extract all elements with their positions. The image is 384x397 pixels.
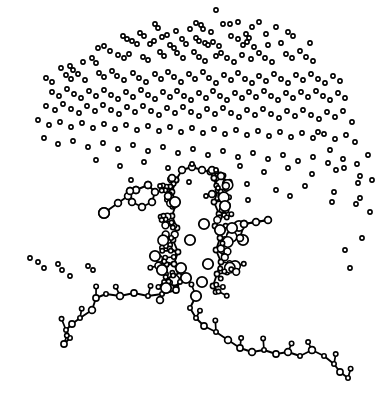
solvent-molecule bbox=[309, 113, 313, 117]
solvent-molecule bbox=[160, 35, 164, 39]
atom bbox=[337, 369, 343, 375]
solvent-molecule bbox=[146, 58, 150, 62]
solvent-molecule bbox=[197, 39, 201, 43]
atom bbox=[162, 222, 169, 229]
atom bbox=[191, 291, 201, 301]
solvent-molecule bbox=[331, 74, 335, 78]
atom bbox=[99, 208, 109, 218]
solvent-molecule bbox=[229, 111, 233, 115]
solvent-molecule bbox=[293, 114, 297, 118]
solvent-molecule bbox=[181, 56, 185, 60]
solvent-molecule bbox=[158, 50, 162, 54]
solvent-molecule bbox=[68, 274, 72, 278]
solvent-molecule bbox=[205, 107, 209, 111]
solvent-molecule bbox=[325, 110, 329, 114]
atom bbox=[334, 352, 338, 356]
solvent-molecule bbox=[216, 186, 220, 190]
atom bbox=[171, 225, 175, 229]
solvent-molecule bbox=[257, 20, 261, 24]
solvent-molecule bbox=[44, 76, 48, 80]
solvent-molecule bbox=[165, 106, 169, 110]
atom bbox=[241, 221, 248, 228]
solvent-molecule bbox=[350, 120, 354, 124]
solvent-molecule bbox=[174, 29, 178, 33]
solvent-molecule bbox=[116, 97, 120, 101]
atom bbox=[78, 316, 82, 320]
solvent-molecule bbox=[288, 194, 292, 198]
solvent-molecule bbox=[269, 94, 273, 98]
atom bbox=[61, 341, 67, 347]
solvent-molecule bbox=[285, 109, 289, 113]
solvent-molecule bbox=[221, 149, 225, 153]
solvent-molecule bbox=[316, 130, 320, 134]
solvent-molecule bbox=[180, 37, 184, 41]
atom bbox=[213, 318, 217, 322]
solvent-molecule bbox=[121, 34, 125, 38]
solvent-molecule bbox=[214, 54, 218, 58]
solvent-molecule bbox=[286, 166, 290, 170]
solvent-molecule bbox=[342, 166, 346, 170]
atom bbox=[129, 199, 136, 206]
solvent-molecule bbox=[269, 112, 273, 116]
solvent-molecule bbox=[139, 88, 143, 92]
solvent-molecule bbox=[298, 49, 302, 53]
solvent-molecule bbox=[209, 30, 213, 34]
solvent-molecule bbox=[370, 178, 374, 182]
solvent-molecule bbox=[122, 78, 126, 82]
solvent-molecule bbox=[144, 80, 148, 84]
atom bbox=[161, 283, 171, 293]
solvent-molecule bbox=[207, 76, 211, 80]
solvent-molecule bbox=[197, 114, 201, 118]
atom bbox=[117, 293, 124, 300]
solvent-molecule bbox=[206, 153, 210, 157]
solvent-molecule bbox=[223, 132, 227, 136]
atom bbox=[214, 216, 221, 223]
molecule-canvas bbox=[0, 0, 384, 397]
atom bbox=[203, 259, 213, 269]
solvent-molecule bbox=[301, 108, 305, 112]
solvent-molecule bbox=[131, 143, 135, 147]
solvent-molecule bbox=[237, 115, 241, 119]
solvent-molecule bbox=[225, 98, 229, 102]
solvent-molecule bbox=[267, 134, 271, 138]
solvent-molecule bbox=[332, 190, 336, 194]
atom bbox=[93, 295, 99, 301]
solvent-molecule bbox=[341, 109, 345, 113]
atom bbox=[214, 283, 218, 287]
atom bbox=[152, 189, 159, 196]
solvent-molecule bbox=[172, 46, 176, 50]
atom bbox=[273, 351, 279, 357]
solvent-molecule bbox=[130, 39, 134, 43]
solvent-molecule bbox=[250, 25, 254, 29]
atom bbox=[332, 362, 336, 366]
solvent-molecule bbox=[194, 21, 198, 25]
solvent-molecule bbox=[165, 33, 169, 37]
solvent-molecule bbox=[245, 182, 249, 186]
solvent-molecule bbox=[69, 125, 73, 129]
solvent-molecule bbox=[286, 81, 290, 85]
solvent-molecule bbox=[354, 202, 358, 206]
solvent-molecule bbox=[135, 42, 139, 46]
solvent-molecule bbox=[299, 90, 303, 94]
solvent-molecule bbox=[356, 181, 360, 185]
solvent-molecule bbox=[228, 22, 232, 26]
atom bbox=[289, 341, 293, 345]
atom bbox=[346, 376, 350, 380]
solvent-molecule bbox=[190, 126, 194, 130]
solvent-molecule bbox=[326, 161, 330, 165]
atom bbox=[169, 175, 176, 182]
solvent-molecule bbox=[184, 42, 188, 46]
atom bbox=[148, 284, 152, 288]
atom bbox=[69, 321, 75, 327]
solvent-molecule bbox=[101, 103, 105, 107]
atom bbox=[169, 220, 173, 224]
solvent-molecule bbox=[274, 188, 278, 192]
solvent-molecule bbox=[338, 79, 342, 83]
solvent-molecule bbox=[135, 128, 139, 132]
solvent-molecule bbox=[91, 268, 95, 272]
solvent-molecule bbox=[279, 77, 283, 81]
solvent-molecule bbox=[149, 109, 153, 113]
solvent-molecule bbox=[274, 25, 278, 29]
solvent-molecule bbox=[193, 77, 197, 81]
solvent-molecule bbox=[246, 198, 250, 202]
